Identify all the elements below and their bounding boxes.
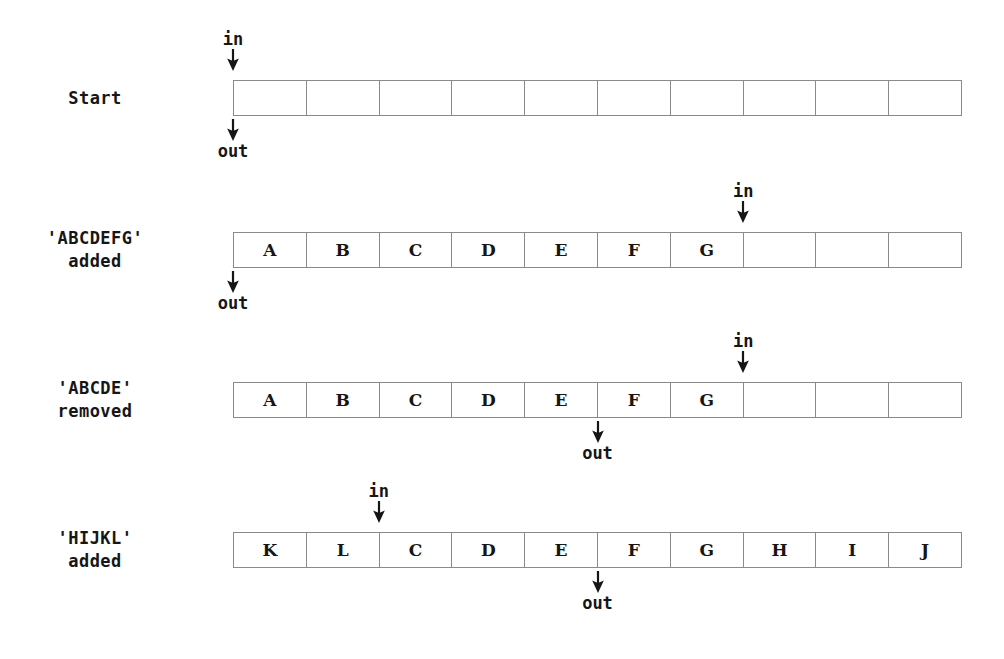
arrow-down-icon <box>713 201 773 223</box>
row-label-line1: 'HIJKL' <box>57 528 132 548</box>
out-marker: out <box>203 271 263 313</box>
queue-diagram: Startinout'ABCDEFG'addedABCDEFGinout'ABC… <box>0 0 1004 659</box>
queue-cell <box>671 81 744 115</box>
out-label: out <box>582 593 613 613</box>
row-label-line2: added <box>5 250 185 273</box>
queue-cell: E <box>525 233 598 267</box>
in-marker: in <box>349 482 409 523</box>
queue-cell: L <box>307 533 380 567</box>
queue-cell: E <box>525 383 598 417</box>
out-marker: out <box>568 421 628 463</box>
arrow-down-icon <box>203 119 263 141</box>
out-label: out <box>582 443 613 463</box>
row-label: 'HIJKL'added <box>5 527 185 573</box>
in-label: in <box>369 481 389 501</box>
in-label: in <box>733 181 753 201</box>
queue-cell <box>889 81 961 115</box>
row-label-line1: 'ABCDE' <box>57 378 132 398</box>
in-marker: in <box>713 182 773 223</box>
queue-cell <box>452 81 525 115</box>
queue-cell: B <box>307 233 380 267</box>
arrow-down-icon <box>349 501 409 523</box>
queue-cell <box>744 233 817 267</box>
queue-cell: D <box>452 383 525 417</box>
out-marker: out <box>568 571 628 613</box>
queue-cell <box>307 81 380 115</box>
queue-strip <box>233 80 962 116</box>
queue-cell: J <box>889 533 961 567</box>
in-marker: in <box>713 332 773 373</box>
queue-strip: ABCDEFG <box>233 382 962 418</box>
out-label: out <box>218 141 249 161</box>
queue-cell: A <box>234 383 307 417</box>
in-label: in <box>223 29 243 49</box>
queue-cell <box>525 81 598 115</box>
queue-cell: G <box>671 533 744 567</box>
queue-cell: G <box>671 383 744 417</box>
row-label: 'ABCDE'removed <box>5 377 185 423</box>
queue-cell: F <box>598 383 671 417</box>
out-marker: out <box>203 119 263 161</box>
arrow-down-icon <box>203 49 263 71</box>
queue-cell: A <box>234 233 307 267</box>
queue-cell: I <box>816 533 889 567</box>
arrow-down-icon <box>203 271 263 293</box>
row-label-line2: removed <box>5 400 185 423</box>
queue-cell: F <box>598 533 671 567</box>
queue-cell <box>744 383 817 417</box>
queue-cell: D <box>452 233 525 267</box>
queue-cell: K <box>234 533 307 567</box>
queue-cell <box>744 81 817 115</box>
queue-strip: ABCDEFG <box>233 232 962 268</box>
queue-cell: E <box>525 533 598 567</box>
arrow-down-icon <box>568 421 628 443</box>
in-label: in <box>733 331 753 351</box>
row-label: 'ABCDEFG'added <box>5 227 185 273</box>
queue-cell: B <box>307 383 380 417</box>
queue-cell: C <box>380 233 453 267</box>
queue-cell <box>816 383 889 417</box>
row-label: Start <box>5 87 185 110</box>
queue-cell: D <box>452 533 525 567</box>
arrow-down-icon <box>713 351 773 373</box>
queue-cell: G <box>671 233 744 267</box>
row-label-line1: 'ABCDEFG' <box>47 228 144 248</box>
queue-cell <box>816 233 889 267</box>
arrow-down-icon <box>568 571 628 593</box>
queue-cell <box>380 81 453 115</box>
queue-strip: KLCDEFGHIJ <box>233 532 962 568</box>
queue-cell <box>598 81 671 115</box>
queue-cell: C <box>380 383 453 417</box>
row-label-line1: Start <box>68 88 122 108</box>
queue-cell <box>816 81 889 115</box>
queue-cell: C <box>380 533 453 567</box>
in-marker: in <box>203 30 263 71</box>
queue-cell <box>889 233 961 267</box>
queue-cell: F <box>598 233 671 267</box>
queue-cell <box>889 383 961 417</box>
out-label: out <box>218 293 249 313</box>
row-label-line2: added <box>5 550 185 573</box>
queue-cell <box>234 81 307 115</box>
queue-cell: H <box>744 533 817 567</box>
